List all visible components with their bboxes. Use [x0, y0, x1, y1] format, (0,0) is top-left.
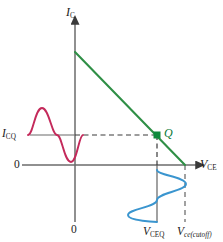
q-point-marker[interactable] — [154, 132, 161, 139]
origin-label-bottom: 0 — [71, 224, 77, 236]
x-axis-label: VCE — [200, 158, 217, 170]
y-axis-label: IC — [66, 6, 75, 18]
origin-label-left: 0 — [14, 159, 20, 171]
diagram-svg — [0, 0, 223, 242]
dc-load-line — [75, 52, 185, 165]
vceq-label: VCEQ — [143, 226, 164, 238]
icq-label: ICQ — [2, 128, 16, 140]
q-point-label: Q — [164, 127, 173, 139]
figure-canvas: IC VCE ICQ 0 0 Q VCEQ Vce(cutoff) — [0, 0, 223, 242]
vce-cutoff-label: Vce(cutoff) — [177, 226, 212, 238]
